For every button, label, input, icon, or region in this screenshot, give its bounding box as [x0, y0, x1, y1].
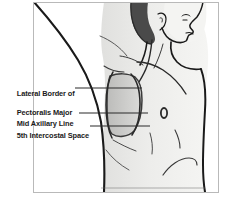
anatomy-illustration [0, 0, 228, 198]
figure-panel: Lateral Border of Pectoralis Major Mid A… [0, 0, 228, 198]
